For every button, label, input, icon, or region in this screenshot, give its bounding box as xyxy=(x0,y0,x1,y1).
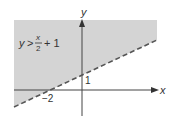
x-axis-label: x xyxy=(159,84,166,96)
inequality-operator: > xyxy=(27,37,33,49)
y-axis-label: y xyxy=(80,6,88,18)
fraction-denominator: 2 xyxy=(36,44,41,53)
y-intercept-label: 1 xyxy=(85,75,91,86)
inequality-constant: + 1 xyxy=(44,37,60,49)
x-axis-arrow-icon xyxy=(151,87,159,93)
inequality-graph: y x −2 1 y > x 2 + 1 xyxy=(0,0,175,124)
x-intercept-label: −2 xyxy=(42,93,54,104)
